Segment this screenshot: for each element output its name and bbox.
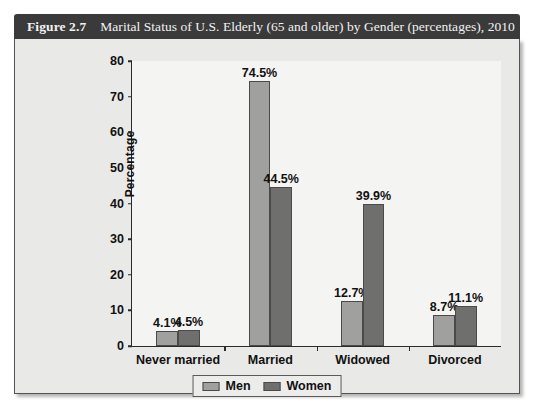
y-tick-mark xyxy=(128,310,133,312)
figure-number: Figure 2.7 xyxy=(27,19,86,35)
x-category-label: Divorced xyxy=(428,353,482,367)
legend-swatch-men-icon xyxy=(203,382,220,391)
legend-swatch-women-icon xyxy=(264,382,281,391)
bar-women-2: 39.9% xyxy=(363,204,385,346)
figure-panel: Percentage 01020304050607080 4.1%4.5%74.… xyxy=(14,39,520,394)
x-category-label: Married xyxy=(248,353,293,367)
bar-value-label: 74.5% xyxy=(242,66,277,80)
bar-women-1: 44.5% xyxy=(270,187,292,346)
y-tick-mark xyxy=(128,96,133,98)
bar-value-label: 11.1% xyxy=(448,291,483,305)
y-tick-mark xyxy=(128,238,133,240)
bar-men-0: 4.1% xyxy=(156,331,178,346)
y-tick-mark xyxy=(128,167,133,169)
legend-item-men: Men xyxy=(203,379,251,393)
bar-value-label: 39.9% xyxy=(356,189,391,203)
y-tick-mark xyxy=(128,132,133,134)
chart-legend: Men Women xyxy=(193,375,342,397)
x-category-label: Never married xyxy=(136,353,220,367)
y-tick-mark xyxy=(128,203,133,205)
y-tick-mark xyxy=(128,60,133,62)
chart-plot-area: Percentage 01020304050607080 4.1%4.5%74.… xyxy=(131,61,501,347)
legend-label-men: Men xyxy=(226,379,251,393)
figure-container: Figure 2.7 Marital Status of U.S. Elderl… xyxy=(0,0,533,409)
legend-item-women: Women xyxy=(264,379,332,393)
bar-men-2: 12.7% xyxy=(341,301,363,346)
bar-women-0: 4.5% xyxy=(178,330,200,346)
figure-caption: Marital Status of U.S. Elderly (65 and o… xyxy=(100,19,515,35)
bar-men-1: 74.5% xyxy=(249,81,271,346)
legend-label-women: Women xyxy=(287,379,332,393)
plot-inner: Percentage 01020304050607080 4.1%4.5%74.… xyxy=(132,61,501,346)
bar-men-3: 8.7% xyxy=(433,315,455,346)
x-category-label: Widowed xyxy=(335,353,390,367)
x-tick-mark xyxy=(317,346,319,351)
bar-women-3: 11.1% xyxy=(455,306,477,346)
y-tick-mark xyxy=(128,274,133,276)
bar-value-label: 4.5% xyxy=(175,315,204,329)
x-tick-mark xyxy=(224,346,226,351)
bar-value-label: 44.5% xyxy=(263,172,298,186)
figure-title-bar: Figure 2.7 Marital Status of U.S. Elderl… xyxy=(14,14,520,39)
x-tick-mark xyxy=(409,346,411,351)
y-tick-mark xyxy=(128,345,133,347)
